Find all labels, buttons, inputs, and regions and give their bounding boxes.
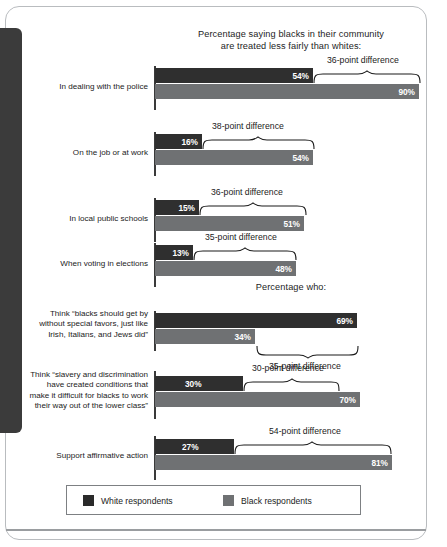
- legend-label: Black respondents: [241, 496, 312, 506]
- chart-legend: White respondents Black respondents: [66, 485, 361, 515]
- bar-group-affirmative-action: Support affirmative action 27% 81% 54-po…: [0, 437, 447, 485]
- category-label-line: without special favors, just like: [16, 319, 148, 329]
- category-label: On the job or at work: [18, 148, 148, 158]
- difference-label: 54-point difference: [269, 426, 341, 436]
- section-1-title-line-1: Percentage saying blacks in their commun…: [155, 28, 427, 40]
- legend-swatch-icon: [83, 495, 94, 506]
- difference-label: 36-point difference: [211, 187, 283, 197]
- bar-group-police: In dealing with the police 54% 90% 36-po…: [0, 64, 447, 112]
- category-label-line: Think “slavery and discrimination: [10, 370, 148, 380]
- difference-label: 30-point difference: [252, 363, 324, 373]
- category-label-line: In local public schools: [18, 214, 148, 224]
- bar-black-respondents: 54%: [155, 150, 313, 165]
- bar-value-label: 90%: [398, 87, 415, 97]
- bar-white-respondents: 16%: [155, 134, 202, 149]
- category-label-line: have created conditions that: [10, 380, 148, 390]
- grouped-bar-chart: Percentage saying blacks in their commun…: [0, 0, 447, 547]
- bar-black-respondents: 34%: [155, 329, 255, 344]
- category-label-line: When voting in elections: [18, 259, 148, 269]
- bar-black-respondents: 48%: [155, 261, 296, 276]
- category-label: Think “slavery and discrimination have c…: [10, 370, 148, 412]
- difference-brace: [202, 136, 315, 150]
- category-label: In local public schools: [18, 214, 148, 224]
- bar-black-respondents: 51%: [155, 216, 304, 231]
- bar-value-label: 51%: [283, 219, 300, 229]
- category-label-line: their way out of the lower class”: [10, 401, 148, 411]
- difference-label: 36-point difference: [327, 55, 399, 65]
- section-1-title-line-2: are treated less fairly than whites:: [155, 40, 427, 52]
- section-1-title: Percentage saying blacks in their commun…: [155, 28, 427, 53]
- difference-brace: [313, 70, 421, 84]
- category-label: Support affirmative action: [14, 451, 148, 461]
- category-label-line: Support affirmative action: [14, 451, 148, 461]
- bar-white-respondents: 13%: [155, 245, 193, 260]
- bar-white-respondents: 27%: [155, 439, 234, 454]
- bar-white-respondents: 54%: [155, 68, 313, 83]
- legend-item-white-respondents: White respondents: [83, 495, 173, 506]
- category-label-line: Irish, Italians, and Jews did”: [16, 330, 148, 340]
- category-label: In dealing with the police: [18, 82, 148, 92]
- bar-value-label: 48%: [275, 264, 292, 274]
- bar-value-label: 54%: [292, 153, 309, 163]
- category-label: Think “blacks should get by without spec…: [16, 309, 148, 340]
- category-label-line: make it difficult for blacks to work: [10, 391, 148, 401]
- bar-value-label: 30%: [185, 379, 202, 389]
- category-label: When voting in elections: [18, 259, 148, 269]
- bar-value-label: 69%: [336, 316, 353, 326]
- bar-value-label: 15%: [178, 203, 195, 213]
- category-label-line: In dealing with the police: [18, 82, 148, 92]
- bar-group-job: On the job or at work 16% 54% 38-point d…: [0, 130, 447, 178]
- bar-value-label: 34%: [234, 332, 251, 342]
- bar-white-respondents: 15%: [155, 200, 199, 215]
- category-label-line: Think “blacks should get by: [16, 309, 148, 319]
- bar-black-respondents: 70%: [155, 392, 360, 407]
- bar-white-respondents: 30%: [155, 376, 243, 391]
- difference-brace: [193, 247, 297, 261]
- legend-label: White respondents: [101, 496, 173, 506]
- difference-brace: [256, 345, 359, 359]
- bar-group-voting: When voting in elections 13% 48% 35-poin…: [0, 241, 447, 289]
- legend-swatch-icon: [223, 495, 234, 506]
- bar-white-respondents: 69%: [155, 313, 357, 328]
- difference-label: 38-point difference: [212, 121, 284, 131]
- difference-brace: [234, 441, 392, 455]
- bar-value-label: 70%: [339, 395, 356, 405]
- category-label-line: On the job or at work: [18, 148, 148, 158]
- bar-value-label: 81%: [371, 458, 388, 468]
- bar-value-label: 16%: [181, 137, 198, 147]
- difference-brace: [199, 202, 307, 216]
- bar-group-slavery-discrimination: Think “slavery and discrimination have c…: [0, 373, 447, 429]
- difference-brace: [243, 378, 341, 392]
- bar-value-label: 13%: [172, 248, 189, 258]
- bar-value-label: 27%: [182, 442, 199, 452]
- bar-group-special-favors: Think “blacks should get by without spec…: [0, 311, 447, 363]
- bar-value-label: 54%: [292, 71, 309, 81]
- difference-label: 35-point difference: [205, 232, 277, 242]
- bar-black-respondents: 81%: [155, 455, 392, 470]
- bar-black-respondents: 90%: [155, 84, 419, 99]
- legend-item-black-respondents: Black respondents: [223, 495, 312, 506]
